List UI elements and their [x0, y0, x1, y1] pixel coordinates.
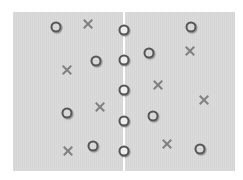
circle-piece-icon[interactable] [195, 144, 206, 155]
center-circle-piece-icon[interactable] [119, 85, 130, 96]
circle-piece-icon[interactable] [51, 22, 62, 33]
cross-piece-icon[interactable] [61, 64, 73, 76]
cross-piece-icon[interactable] [82, 18, 94, 30]
circle-piece-icon[interactable] [91, 56, 102, 67]
center-circle-piece-icon[interactable] [119, 146, 130, 157]
center-circle-piece-icon[interactable] [119, 116, 130, 127]
cross-piece-icon[interactable] [184, 45, 196, 57]
circle-piece-icon[interactable] [186, 22, 197, 33]
cross-piece-icon[interactable] [152, 79, 164, 91]
center-circle-piece-icon[interactable] [119, 55, 130, 66]
cross-piece-icon[interactable] [198, 94, 210, 106]
circle-piece-icon[interactable] [148, 111, 159, 122]
cross-piece-icon[interactable] [94, 101, 106, 113]
circle-piece-icon[interactable] [144, 48, 155, 59]
circle-piece-icon[interactable] [62, 108, 73, 119]
cross-piece-icon[interactable] [161, 138, 173, 150]
center-circle-piece-icon[interactable] [119, 25, 130, 36]
cross-piece-icon[interactable] [62, 145, 74, 157]
circle-piece-icon[interactable] [88, 141, 99, 152]
